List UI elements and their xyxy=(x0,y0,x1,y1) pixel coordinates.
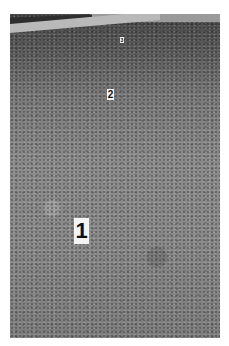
marker-card-2: 2 xyxy=(107,89,114,100)
marker-card-3: 3 xyxy=(120,37,124,43)
marker-card-1: 1 xyxy=(74,218,89,244)
ground-texture xyxy=(10,14,220,338)
field-photograph: 3 2 1 xyxy=(10,14,220,338)
road-background xyxy=(10,14,220,36)
